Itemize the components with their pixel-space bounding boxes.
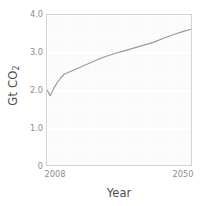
y-axis-tick-label: 4.0 [30, 9, 43, 19]
y-axis-tick-label: 3.0 [30, 47, 43, 57]
y-axis-title-text: Gt CO [6, 70, 20, 105]
y-axis-tick-label: 1.0 [30, 123, 43, 133]
y-axis-title-subscript: 2 [12, 65, 21, 70]
series-line-co2-emissions [47, 15, 191, 165]
y-axis-tick-labels: 4.03.02.01.00 [26, 14, 43, 166]
y-axis-tick-label: 2.0 [30, 85, 43, 95]
y-axis-tick-label: 0 [38, 161, 43, 171]
y-axis-title: Gt CO2 [0, 0, 26, 170]
x-axis-tick-label: 2008 [45, 169, 66, 179]
x-axis-tick-labels: 20082050 [46, 169, 192, 181]
chart-screenshot: Gt CO2 4.03.02.01.00 20082050 Year [0, 0, 203, 206]
plot-panel [46, 14, 192, 166]
x-axis-tick-label: 2050 [173, 169, 194, 179]
x-axis-title: Year [46, 186, 192, 200]
